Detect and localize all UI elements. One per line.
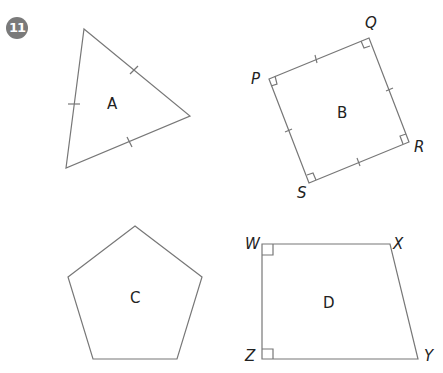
label-d: D [323, 294, 335, 312]
vertex-x: X [392, 235, 404, 253]
shape-d-trapezium [262, 244, 418, 359]
label-b: B [337, 104, 347, 122]
vertex-z: Z [244, 347, 256, 365]
label-c: C [130, 289, 140, 307]
vertex-w: W [245, 235, 261, 253]
vertex-r: R [414, 138, 424, 156]
label-a: A [107, 95, 118, 113]
vertex-p: P [251, 70, 261, 88]
vertex-y: Y [424, 347, 435, 365]
shapes-figure: A B C D P Q R S W X Y Z [0, 0, 443, 373]
vertex-s: S [297, 184, 307, 202]
vertex-q: Q [365, 14, 377, 32]
shape-a-triangle [66, 29, 190, 168]
